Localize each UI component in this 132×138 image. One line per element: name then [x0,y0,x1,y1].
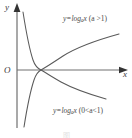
equation-label-decreasing: y=logax (0<a<1) [53,107,103,115]
equation-increasing-arg: x [84,14,87,23]
equation-decreasing-condition: (0<a<1) [79,106,103,115]
origin-label: O [4,66,11,75]
y-axis-label: y [5,3,9,12]
equation-decreasing-lhs: y=log [53,106,71,115]
equation-increasing-lhs: y=log [63,14,81,23]
figure-caption: 图 [0,130,132,138]
logarithm-graph-figure: y x O y=logax (a >1) y=logax (0<a<1) 图 [0,0,132,138]
equation-label-increasing: y=logax (a >1) [63,15,107,23]
x-axis-label: x [123,70,127,79]
equation-decreasing-arg: x [74,106,77,115]
equation-increasing-condition: (a >1) [89,14,107,23]
y-axis-arrowhead [14,3,21,12]
